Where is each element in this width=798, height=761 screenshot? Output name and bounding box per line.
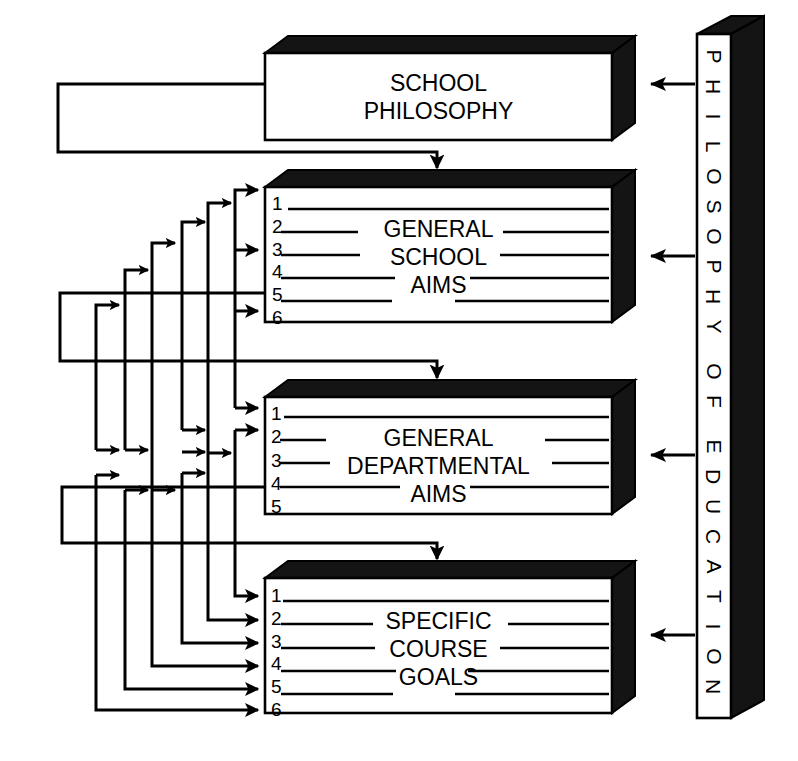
arrow-goal-2 — [208, 518, 258, 620]
riser-1 — [96, 305, 119, 345]
box-specific-course-goals — [265, 561, 635, 713]
arrow-goal-1 — [235, 518, 258, 596]
philosophy-feed-arrows — [651, 84, 695, 635]
flow-diagram-svg — [0, 0, 798, 761]
arrows-into-general-school-aims — [235, 250, 258, 311]
riser-6 — [235, 190, 258, 345]
return-rails — [96, 345, 235, 518]
diagram-canvas: PHILOSOPHYOFEDUCATION SCHOOLPHILOSOPHY G… — [0, 0, 798, 761]
riser-4 — [182, 222, 205, 345]
riser-5 — [208, 203, 231, 345]
staircase-risers-upper — [96, 190, 258, 345]
box-general-school-aims — [265, 170, 635, 322]
box-general-departmental-aims — [265, 380, 635, 514]
philosophy-of-education-bar — [697, 16, 764, 718]
box-school-philosophy — [265, 36, 635, 140]
riser-2 — [125, 270, 148, 345]
arrows-into-course-goals — [96, 518, 258, 710]
arrow-goal-3 — [182, 518, 258, 643]
